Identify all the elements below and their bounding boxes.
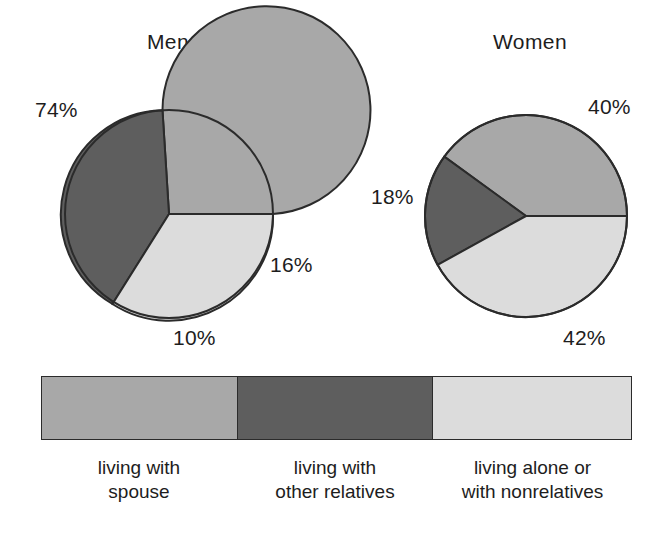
legend-label-line2: spouse	[41, 480, 237, 504]
legend-label-living-alone-or-with-nonrelatives: living alone or with nonrelatives	[433, 456, 632, 505]
women-label-other-relatives-percent: 18%	[371, 185, 414, 209]
legend-label-line1: living with	[98, 457, 180, 478]
legend-label-line1: living alone or	[474, 457, 591, 478]
legend-captions: living with spouse living with other rel…	[41, 456, 632, 505]
women-label-spouse-percent: 40%	[588, 95, 631, 119]
men-slice-spouse	[162, 6, 370, 214]
women-label-alone-percent: 42%	[563, 326, 606, 350]
legend-label-living-with-spouse: living with spouse	[41, 456, 237, 505]
men-label-alone-percent: 16%	[270, 253, 313, 277]
pie-chart-figure: Men 74% 10% 16% Women 40% 18% 42% living…	[0, 0, 670, 548]
legend-swatch-living-with-other-relatives	[237, 377, 433, 439]
legend-label-line2: with nonrelatives	[433, 480, 632, 504]
men-pie-chart	[63, 108, 275, 320]
men-label-spouse-percent: 74%	[35, 98, 78, 122]
men-label-other-relatives-percent: 10%	[173, 326, 216, 350]
legend-swatch-living-alone-or-with-nonrelatives	[432, 377, 631, 439]
legend-swatch-living-with-spouse	[42, 377, 237, 439]
legend-bar	[41, 376, 632, 440]
legend-label-line2: other relatives	[237, 480, 433, 504]
legend-label-living-with-other-relatives: living with other relatives	[237, 456, 433, 505]
legend-label-line1: living with	[294, 457, 376, 478]
women-pie-chart	[423, 113, 629, 319]
women-chart-title: Women	[470, 30, 590, 54]
